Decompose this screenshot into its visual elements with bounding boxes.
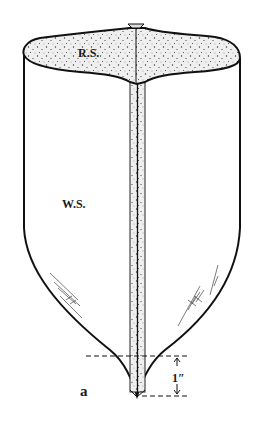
label-a: a xyxy=(80,383,88,399)
diagram: R.S. W.S. a 1″ xyxy=(0,0,256,425)
label-dimension: 1″ xyxy=(172,371,185,385)
label-ws: W.S. xyxy=(62,197,86,211)
label-rs: R.S. xyxy=(78,46,99,60)
central-strip xyxy=(130,82,145,397)
